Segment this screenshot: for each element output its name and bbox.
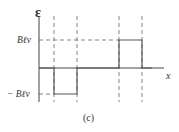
- emf-vs-position-diagram: ε x Bℓv − Bℓv (c): [0, 0, 179, 132]
- vertical-guides: [54, 16, 142, 102]
- positive-level-label: Bℓv: [17, 35, 32, 45]
- level-guides: [39, 40, 119, 94]
- negative-level-label: − Bℓv: [7, 89, 31, 99]
- emf-waveform: [39, 40, 152, 94]
- x-axis-label: x: [165, 70, 171, 81]
- y-axis-label: ε: [35, 5, 41, 20]
- caption: (c): [83, 112, 94, 124]
